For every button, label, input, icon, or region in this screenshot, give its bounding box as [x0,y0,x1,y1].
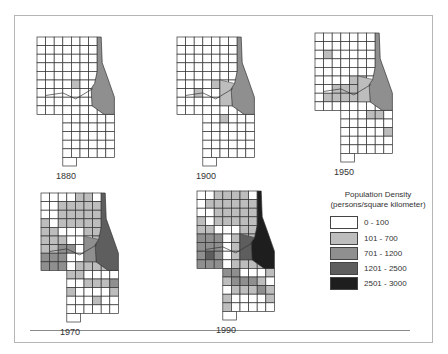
map-1990 [196,190,286,330]
legend-swatch [330,262,358,275]
legend-title-line2: (persons/square kilometer) [318,200,438,210]
legend-title: Population Density (persons/square kilom… [318,190,438,210]
legend-swatch [330,247,358,260]
map-1880 [36,36,126,176]
legend-label: 2501 - 3000 [364,279,407,288]
map-1950 [314,32,404,172]
legend-title-line1: Population Density [318,190,438,200]
map-year-label: 1970 [50,327,90,337]
legend-swatch [330,232,358,245]
map-1900 [176,36,266,176]
legend-label: 101 - 700 [364,234,398,243]
legend-label: 1201 - 2500 [364,264,407,273]
legend-swatch [330,277,358,290]
legend-label: 0 - 100 [364,218,389,227]
legend-label: 701 - 1200 [364,249,402,258]
map-year-label: 1950 [324,167,364,177]
map-1970 [40,192,130,332]
legend-swatch [330,216,358,229]
map-year-label: 1880 [46,171,86,181]
map-year-label: 1990 [206,325,246,335]
map-year-label: 1900 [186,171,226,181]
legend: Population Density (persons/square kilom… [318,190,438,210]
